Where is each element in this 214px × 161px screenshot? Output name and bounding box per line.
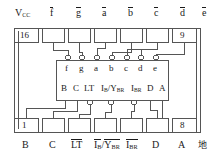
LT-bar-text: LT [71, 140, 82, 150]
pin-label-IB-YBR-bar: IB/YBR [94, 140, 120, 151]
pin-label-B: B [22, 140, 29, 150]
b-bar-text: b [128, 8, 133, 18]
pin-label-g-bar: g [76, 8, 81, 18]
route-top-a [97, 42, 105, 57]
inner-output-b: b [109, 64, 114, 73]
pin-box-top-6 [146, 28, 168, 42]
pin-label-c-bar: c [154, 8, 158, 18]
pin-box-bot-3 [68, 118, 90, 132]
pin-box-top-3 [68, 28, 90, 42]
vcc-sub: CC [22, 11, 30, 18]
route-bot-LT [79, 103, 90, 118]
YBR-bar-group: YBR [104, 140, 120, 151]
bubble-out-b [110, 55, 115, 60]
pin-box-top-5 [120, 28, 142, 42]
pin-label-LT-bar: LT [71, 140, 82, 150]
bubble-out-c [125, 55, 130, 60]
inner-output-e: e [153, 64, 157, 73]
IBR-bar-group: IBR [126, 140, 138, 151]
f-bar-text: f [50, 8, 53, 18]
pin-label-C: C [49, 140, 56, 150]
inner-output-g: g [79, 64, 84, 73]
pin-label-a-bar: a [102, 8, 106, 18]
c-bar-text: c [154, 8, 158, 18]
pin-number-9: 9 [180, 31, 185, 40]
pin-number-1: 1 [22, 121, 27, 130]
pin-label-A: A [178, 140, 185, 150]
bubble-in-IB-YBR [109, 100, 114, 105]
pin-number-8: 8 [180, 121, 185, 130]
pin-box-bot-4 [94, 118, 116, 132]
bubble-out-d [139, 55, 144, 60]
e-bar-text: e [202, 8, 206, 18]
pin-box-top-2 [42, 28, 64, 42]
pin-label-vcc: VCC [15, 8, 31, 19]
pin-box-bot-2 [42, 118, 64, 132]
pin-label-e-bar: e [202, 8, 206, 18]
pin-box-bot-6 [146, 118, 168, 132]
pin-label-IBR-bar: IBR [126, 140, 138, 151]
inner-input-D: D [147, 84, 154, 93]
route-top-f [53, 42, 68, 57]
inner-input-IB-YBR: IB/YBR [101, 84, 124, 94]
pin-label-f-bar: f [50, 8, 53, 18]
d-bar-text: d [180, 8, 185, 18]
bubble-out-e [154, 55, 159, 60]
pin-box-top-4 [94, 28, 116, 42]
Y-sub: BR [112, 143, 120, 150]
pin-label-b-bar: b [128, 8, 133, 18]
g-bar-text: g [76, 8, 81, 18]
Y-letter: Y [104, 139, 111, 150]
IBR-sub: BR [129, 143, 137, 150]
bubble-in-IBR [132, 100, 137, 105]
ic-package-body [14, 28, 200, 132]
route-bot-D [150, 100, 157, 118]
inner-Y-sub: BR [117, 87, 124, 93]
pin-box-bot-5 [120, 118, 142, 132]
inner-input-B: B [61, 84, 67, 93]
inner-input-LT: LT [84, 84, 94, 93]
IB-bar-group: IB [94, 140, 101, 151]
a-bar-text: a [102, 8, 106, 18]
pinout-svg [0, 0, 214, 161]
inner-input-C: C [73, 84, 79, 93]
ic-pinout-diagram: VCC f g a b c d e 16 9 1 8 f g a b c d e… [0, 0, 214, 161]
inner-input-A: A [159, 84, 166, 93]
route-bot-B [26, 100, 65, 118]
bubble-out-f [66, 55, 71, 60]
route-top-e [156, 42, 184, 57]
pin-label-ground: 地 [198, 141, 207, 150]
pin-label-D: D [152, 140, 159, 150]
pin-label-d-bar: d [180, 8, 185, 18]
inner-IBR-sub: BR [134, 87, 141, 93]
inner-output-c: c [124, 64, 128, 73]
pin-number-16: 16 [20, 31, 29, 40]
IB-sub: B [97, 143, 101, 150]
inner-output-d: d [138, 64, 143, 73]
inner-output-a: a [94, 64, 98, 73]
inner-input-IBR: IBR [131, 84, 141, 94]
inner-output-f: f [65, 64, 68, 73]
bubble-out-a [95, 55, 100, 60]
bubble-in-LT [88, 100, 93, 105]
bubble-out-g [80, 55, 85, 60]
